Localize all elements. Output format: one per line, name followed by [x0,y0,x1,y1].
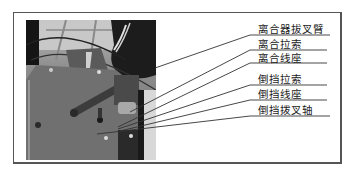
label-reverse-fork-shaft: 倒挡拨叉轴 [258,104,313,116]
label-clutch-cable: 离合拉索 [258,38,302,50]
label-clutch-fork-arm: 离合器拔叉臂 [258,23,324,35]
label-reverse-cable-seat: 倒挡线座 [258,88,302,100]
label-clutch-cable-seat: 离合线座 [258,52,302,64]
label-reverse-cable: 倒挡拉索 [258,73,302,85]
